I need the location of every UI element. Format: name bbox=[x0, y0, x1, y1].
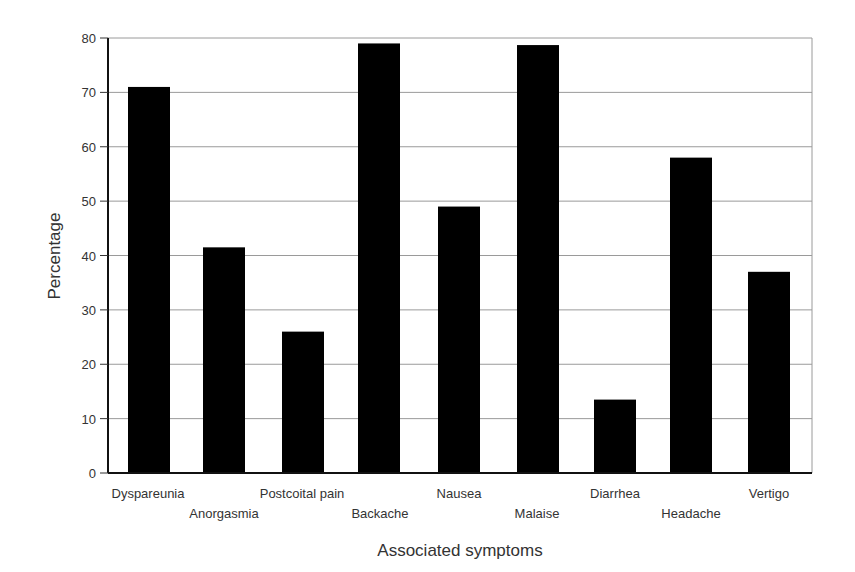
bar-malaise bbox=[517, 45, 559, 473]
y-tick-label: 30 bbox=[82, 303, 96, 318]
category-label: Dyspareunia bbox=[112, 486, 186, 501]
x-category-labels: DyspareuniaAnorgasmiaPostcoital painBack… bbox=[112, 486, 790, 521]
y-tick-label: 50 bbox=[82, 194, 96, 209]
y-tick-labels: 01020304050607080 bbox=[82, 31, 108, 481]
bar-headache bbox=[670, 158, 712, 473]
bar-vertigo bbox=[748, 272, 790, 473]
category-label: Malaise bbox=[515, 506, 560, 521]
y-tick-label: 10 bbox=[82, 412, 96, 427]
bar-dyspareunia bbox=[128, 87, 170, 473]
bar-postcoital-pain bbox=[282, 332, 324, 473]
category-label: Nausea bbox=[437, 486, 483, 501]
y-tick-label: 0 bbox=[89, 466, 96, 481]
bar-diarrhea bbox=[594, 400, 636, 473]
category-label: Backache bbox=[351, 506, 408, 521]
y-axis-title: Percentage bbox=[45, 213, 64, 300]
x-axis-title: Associated symptoms bbox=[377, 541, 542, 560]
category-label: Diarrhea bbox=[590, 486, 641, 501]
category-label: Anorgasmia bbox=[189, 506, 259, 521]
bars bbox=[128, 43, 790, 473]
category-label: Postcoital pain bbox=[260, 486, 345, 501]
category-label: Vertigo bbox=[749, 486, 789, 501]
bar-chart: 01020304050607080 DyspareuniaAnorgasmiaP… bbox=[0, 0, 855, 572]
y-tick-label: 80 bbox=[82, 31, 96, 46]
bar-backache bbox=[358, 43, 400, 473]
category-label: Headache bbox=[661, 506, 720, 521]
y-tick-label: 40 bbox=[82, 249, 96, 264]
bar-nausea bbox=[438, 207, 480, 473]
y-tick-label: 20 bbox=[82, 357, 96, 372]
bar-anorgasmia bbox=[203, 247, 245, 473]
y-tick-label: 60 bbox=[82, 140, 96, 155]
y-tick-label: 70 bbox=[82, 85, 96, 100]
